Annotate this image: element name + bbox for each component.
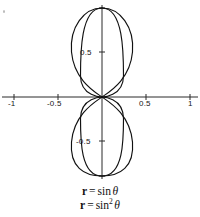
caption-line-sin-theta: r=sinθ (0, 184, 200, 198)
x-tick-label-neg-one: -1 (8, 99, 16, 108)
caption-line-sin-squared-theta: r=sin2θ (0, 198, 200, 212)
chart-caption: r=sinθ r=sin2θ (0, 184, 200, 212)
polar-plot-canvas: -1 -0.5 0.5 1 0.5 -0.5 (0, 0, 200, 186)
caption1-theta: θ (111, 185, 118, 197)
caption1-function: sin (98, 185, 111, 197)
x-tick-label-pos-half: 0.5 (139, 99, 151, 108)
caption2-function: sin (96, 199, 109, 211)
x-tick-label-neg-half: -0.5 (47, 99, 62, 108)
caption2-equals: = (85, 199, 96, 211)
x-tick-label-pos-one: 1 (188, 99, 193, 108)
scan-speck (3, 10, 5, 13)
y-tick-label-neg-half: -0.5 (76, 137, 91, 146)
polar-plot-figure: -1 -0.5 0.5 1 0.5 -0.5 r=sinθ r=sin2θ (0, 0, 200, 217)
caption1-equals: = (87, 185, 98, 197)
caption2-theta: θ (113, 199, 120, 211)
